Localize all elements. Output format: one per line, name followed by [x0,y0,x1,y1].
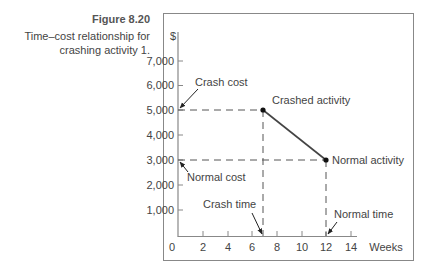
normal-cost-arrow [180,162,188,172]
x-tick-2: 2 [200,241,206,253]
y-tick-4000: 4,000 [146,129,174,141]
chart: $ 7,000 6,000 5,000 4,000 3,000 2,000 1,… [0,0,432,269]
y-tick-5000: 5,000 [146,104,174,116]
crashed-activity-label: Crashed activity [272,94,351,106]
x-tick-10: 10 [296,241,308,253]
crash-cost-label: Crash cost [195,76,248,88]
y-tick-7000: 7,000 [146,55,174,67]
x-tick-4: 4 [225,241,231,253]
chart-frame [164,14,414,261]
normal-cost-label: Normal cost [187,171,246,183]
x-tick-8: 8 [274,241,280,253]
y-tick-6000: 6,000 [146,79,174,91]
x-unit-label: Weeks [369,241,403,253]
normal-time-label: Normal time [334,208,393,220]
crash-time-label: Crash time [203,198,256,210]
y-unit-label: $ [170,30,176,42]
x-tick-14: 14 [345,241,357,253]
x-tick-6: 6 [249,241,255,253]
y-tick-2000: 2,000 [146,179,174,191]
normal-time-arrow [328,222,337,234]
y-tick-1000: 1,000 [146,204,174,216]
x-tick-12: 12 [320,241,332,253]
x-tick-0: 0 [169,241,175,253]
normal-activity-point [323,157,328,162]
crash-cost-arrow [180,89,198,108]
crash-time-arrow [252,213,262,234]
y-tick-3000: 3,000 [146,154,174,166]
crashed-activity-point [260,107,265,112]
normal-activity-label: Normal activity [332,154,405,166]
crash-line [263,110,326,160]
